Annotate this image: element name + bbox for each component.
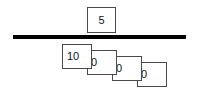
diagram-canvas: 5 10 0 0 0 <box>0 0 198 92</box>
card-value: 5 <box>98 15 104 26</box>
card-top-5[interactable]: 5 <box>87 7 116 33</box>
card-value: 0 <box>116 63 138 74</box>
card-stack-item-10[interactable]: 10 <box>62 44 92 69</box>
card-value: 0 <box>141 69 163 80</box>
card-value: 0 <box>91 57 113 68</box>
horizontal-rule <box>13 35 186 39</box>
card-value: 10 <box>67 51 87 62</box>
